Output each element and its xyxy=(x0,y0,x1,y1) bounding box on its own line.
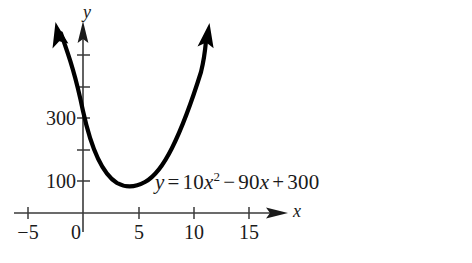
parabola-curve xyxy=(53,22,214,186)
equation-linear-coefficient: 90 xyxy=(238,170,259,194)
equation-constant: 300 xyxy=(287,170,319,194)
parabola-graph-figure: −5 0 5 10 15 100 300 y x y=10x2−90x+300 xyxy=(0,0,472,263)
equation-quadratic-coefficient: 10 xyxy=(183,170,204,194)
x-tick-label-0: 0 xyxy=(71,222,81,242)
equation-operator-1: − xyxy=(220,170,238,194)
equation-lhs: y xyxy=(155,170,165,194)
x-tick-label-10: 10 xyxy=(184,222,204,242)
y-tick-label-300: 300 xyxy=(24,108,76,128)
equation-annotation: y=10x2−90x+300 xyxy=(155,170,319,195)
equation-variable: x xyxy=(204,170,214,194)
x-tick-label-15: 15 xyxy=(239,222,259,242)
x-tick-label-5: 5 xyxy=(134,222,144,242)
equation-linear-variable: x xyxy=(260,170,270,194)
x-tick-label-minus-5: −5 xyxy=(17,222,38,242)
equation-operator-2: + xyxy=(269,170,287,194)
y-axis-name-label: y xyxy=(83,3,91,21)
x-axis xyxy=(14,208,288,219)
y-tick-label-100: 100 xyxy=(24,171,76,191)
x-axis-name-label: x xyxy=(293,202,301,220)
equation-equals: = xyxy=(165,170,183,194)
